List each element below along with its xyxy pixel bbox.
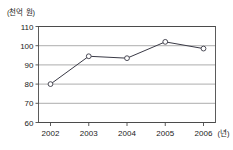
data-point-2004 bbox=[125, 56, 130, 61]
data-point-2002 bbox=[48, 82, 53, 87]
x-tick-label-2006: 2006 bbox=[195, 129, 213, 138]
data-point-2005 bbox=[163, 39, 168, 44]
x-tick-label-2004: 2004 bbox=[118, 129, 136, 138]
y-tick-label-80: 80 bbox=[25, 80, 34, 89]
x-axis-unit-label: (년) bbox=[218, 128, 230, 138]
y-tick-label-90: 90 bbox=[25, 61, 34, 70]
y-tick-label-100: 100 bbox=[20, 42, 34, 51]
x-tick-label-2003: 2003 bbox=[80, 129, 98, 138]
data-point-2006 bbox=[201, 46, 206, 51]
plot-frame bbox=[39, 27, 216, 123]
y-tick-label-70: 70 bbox=[25, 99, 34, 108]
data-series-line bbox=[51, 42, 204, 84]
line-chart-figure: (천억 원) 607080901001102002200320042005200… bbox=[0, 0, 233, 150]
x-tick-label-2002: 2002 bbox=[42, 129, 60, 138]
chart-plot-area: 6070809010011020022003200420052006(년) bbox=[0, 0, 233, 150]
data-point-2003 bbox=[86, 54, 91, 59]
x-tick-label-2005: 2005 bbox=[156, 129, 174, 138]
y-tick-label-110: 110 bbox=[21, 23, 34, 32]
y-tick-label-60: 60 bbox=[25, 119, 34, 128]
